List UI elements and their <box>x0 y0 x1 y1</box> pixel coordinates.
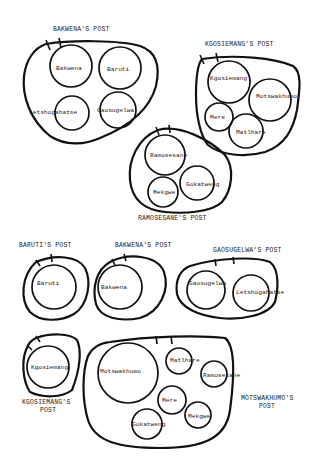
member-label: Motswakhumo <box>256 93 297 100</box>
group-ramosesanes-post: Ramosesane Mekgwe Gokatweng RAMOSESANE'S… <box>130 125 231 222</box>
group-barutis-post: BARUTI'S POST Baruti <box>19 242 88 320</box>
member-label: Letshogahatse <box>236 289 285 296</box>
member-circle <box>208 61 250 103</box>
member-label: Matlhare <box>170 357 200 364</box>
group-boundary <box>23 257 88 320</box>
group-bakwenas-post-bottom: BAKWENA'S POST Bakwena <box>95 242 172 319</box>
group-gaosugelwas-post: GAOSUGELWA'S POST Gaosugelwa Letshogahat… <box>177 247 285 318</box>
group-bakwenas-post-top: BAKWENA'S POST Bakwena Baruti Letshogaha… <box>24 26 158 143</box>
boundary-tick <box>59 38 61 48</box>
diagram-canvas: BAKWENA'S POST Bakwena Baruti Letshogaha… <box>0 0 320 474</box>
group-title: BAKWENA'S POST <box>115 242 172 249</box>
member-label: Bakwena <box>56 65 82 72</box>
boundary-tick <box>169 125 170 133</box>
group-title-line2: POST <box>40 407 56 414</box>
member-label: Mere <box>162 397 177 404</box>
member-label: Gaosugelwa <box>97 107 134 114</box>
boundary-tick <box>28 346 32 350</box>
member-circle <box>187 271 225 309</box>
group-title: BAKWENA'S POST <box>53 26 110 33</box>
boundary-tick <box>51 254 52 262</box>
group-title: RAMOSESANE'S POST <box>138 215 207 222</box>
member-label: Motswakhumo <box>100 368 141 375</box>
group-title: GAOSUGELWA'S POST <box>213 247 282 254</box>
boundary-tick <box>233 257 234 264</box>
member-label: Baruti <box>107 66 130 73</box>
member-label: Ramosesane <box>203 372 240 379</box>
member-label: Kgosiemang <box>31 364 68 371</box>
member-label: Baruti <box>37 280 60 287</box>
member-label: Gokatweng <box>132 421 166 428</box>
member-label: Ramosesane <box>150 152 187 159</box>
boundary-tick <box>124 254 126 261</box>
group-title-line1: MOTSWAKHUMO'S <box>241 395 293 402</box>
group-kgosiemangs-post-top: KGOSIEMANG'S POST Kgosiemang Motswakhumo… <box>196 41 300 155</box>
member-label: Matlhare <box>236 129 266 136</box>
member-label: Kgosiemang <box>210 75 247 82</box>
group-kgosiemangs-post-bottom: Kgosiemang KGOSIEMANG'S POST <box>22 334 80 414</box>
member-label: Gaosugelwa <box>189 280 226 287</box>
member-label: Mekgwe <box>153 189 176 196</box>
member-label: Letshogahatse <box>29 109 78 116</box>
boundary-tick <box>171 336 172 344</box>
boundary-tick <box>216 53 218 62</box>
boundary-tick <box>215 259 216 266</box>
group-title-line1: KGOSIEMANG'S <box>22 399 70 406</box>
member-circle <box>32 265 76 309</box>
member-label: Mere <box>210 114 225 121</box>
group-motswakhumos-post: Motswakhumo Matlhare Ramosesane Mere Mek… <box>84 336 294 448</box>
boundary-tick <box>156 336 157 344</box>
member-label: Gokatweng <box>186 181 220 188</box>
group-title: KGOSIEMANG'S POST <box>205 41 274 48</box>
group-title: BARUTI'S POST <box>19 242 71 249</box>
member-label: Bakwena <box>101 284 127 291</box>
member-circle <box>249 79 291 121</box>
group-title-line2: POST <box>259 403 275 410</box>
member-label: Mekgwe <box>188 413 211 420</box>
